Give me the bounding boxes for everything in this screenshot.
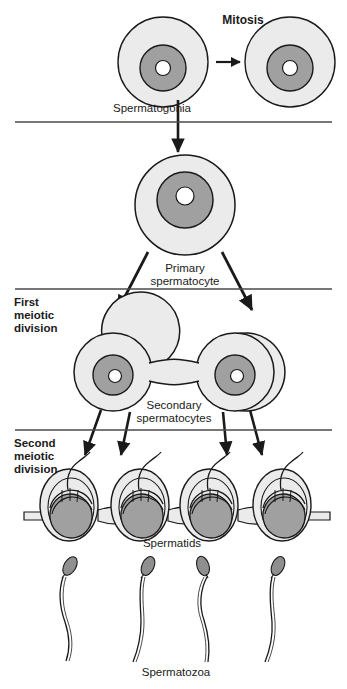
arrow-to-secondary-right	[222, 252, 252, 310]
spermatid-cell-2	[111, 452, 169, 542]
sperm-tail	[265, 577, 272, 662]
sperm-tail	[60, 577, 69, 661]
stage-spermatids: Spermatids	[24, 452, 330, 549]
first-meiotic-division-label-line3: division	[14, 322, 57, 334]
arrow-to-spermatid-4	[250, 410, 262, 455]
spermatogonia-label: Spermatogonia	[113, 102, 192, 114]
secondary-spermatocytes-label-line1: Secondary	[147, 399, 202, 411]
diagram-canvas: Mitosis Spermatogonia Primary spermatocy…	[0, 0, 347, 689]
secondary-spermatocyte-nucleolus-right	[231, 370, 244, 383]
primary-spermatocyte-nucleolus	[176, 187, 194, 205]
stage-spermatozoa: Spermatozoa	[60, 554, 288, 678]
primary-spermatocyte-label-line1: Primary	[165, 262, 205, 274]
sperm-head	[60, 554, 80, 577]
spermatozoa-label: Spermatozoa	[142, 666, 211, 678]
spermatogonium-cell-right	[245, 17, 335, 107]
spermatid-bridge-right-stub	[308, 512, 330, 520]
second-meiotic-division-label-line3: division	[14, 463, 57, 475]
spermatid-cell-4	[253, 452, 311, 542]
primary-spermatocyte-label-line2: spermatocyte	[150, 275, 219, 287]
sperm-head	[138, 554, 157, 577]
spermatozoon-4	[265, 554, 288, 662]
sperm-tail	[201, 577, 209, 662]
nucleolus	[283, 61, 298, 76]
stage-spermatogonia: Mitosis Spermatogonia	[113, 13, 335, 152]
first-meiotic-division-label-line2: meiotic	[14, 309, 55, 321]
secondary-spermatocytes-label-line2: spermatocytes	[137, 412, 212, 424]
second-meiotic-division-label-line1: Second	[14, 437, 56, 449]
cytoplasmic-bridge-fill	[149, 359, 199, 385]
spermatogenesis-diagram: Mitosis Spermatogonia Primary spermatocy…	[0, 0, 347, 689]
secondary-spermatocyte-nucleolus-left	[109, 370, 122, 383]
sperm-head	[194, 555, 212, 578]
spermatids-label: Spermatids	[143, 537, 201, 549]
spermatid-cell-3	[180, 452, 238, 542]
mitosis-label: Mitosis	[222, 13, 264, 27]
spermatozoon-2	[133, 554, 158, 662]
sperm-head	[268, 554, 287, 577]
spermatozoon-1	[60, 554, 80, 661]
arrow-to-spermatid-3	[223, 412, 227, 455]
arrow-to-spermatid-2	[121, 412, 130, 455]
nucleolus	[156, 61, 171, 76]
stage-primary-spermatocyte: Primary spermatocyte	[118, 155, 252, 310]
spermatozoon-3	[194, 555, 212, 662]
spermatogonium-cell-left	[118, 17, 208, 107]
first-meiotic-division-label-line1: First	[14, 296, 39, 308]
second-meiotic-division-label-line2: meiotic	[14, 450, 55, 462]
arrow-to-spermatid-1	[85, 410, 101, 455]
